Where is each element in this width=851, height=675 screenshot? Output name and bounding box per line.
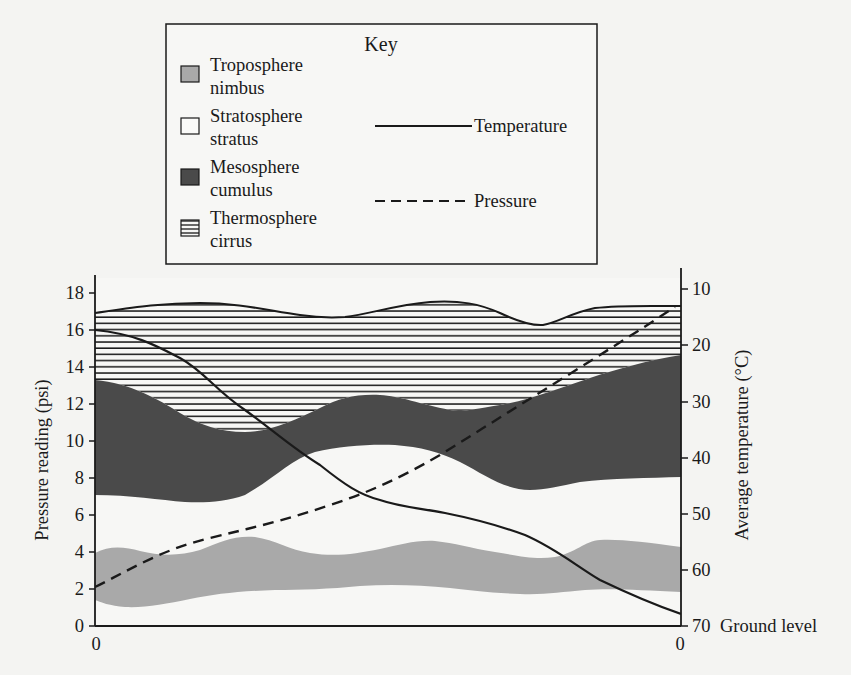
plot-area bbox=[95, 278, 681, 626]
tick-label: 40 bbox=[692, 448, 711, 468]
right-axis-label: Average temperature (°C) bbox=[732, 350, 753, 541]
swatch-thermosphere-icon bbox=[181, 220, 199, 236]
legend-label: Temperature bbox=[474, 116, 567, 136]
legend-label: Mesosphere bbox=[210, 157, 299, 177]
tick-label: 70 bbox=[692, 616, 711, 636]
tick-label: 60 bbox=[692, 560, 711, 580]
left-axis-label: Pressure reading (psi) bbox=[32, 379, 53, 540]
swatch-mesosphere-icon bbox=[181, 169, 199, 185]
x-axis: 0 0 bbox=[91, 626, 684, 654]
tick-label: 14 bbox=[66, 357, 85, 377]
x-tick-label: 0 bbox=[91, 634, 100, 654]
legend: Key Troposphere nimbus Stratosphere stra… bbox=[166, 24, 597, 264]
tick-label: 6 bbox=[75, 505, 84, 525]
x-tick-label: 0 bbox=[675, 634, 684, 654]
right-axis: 10 20 30 40 50 60 70 Ground level Averag… bbox=[681, 268, 817, 636]
legend-title: Key bbox=[364, 33, 397, 56]
legend-label: Pressure bbox=[474, 191, 537, 211]
tick-label: 16 bbox=[66, 320, 85, 340]
chart: Key Troposphere nimbus Stratosphere stra… bbox=[0, 0, 851, 675]
tick-label: 12 bbox=[66, 394, 85, 414]
legend-label: nimbus bbox=[210, 78, 264, 98]
tick-label: 30 bbox=[692, 392, 711, 412]
tick-label: 10 bbox=[66, 431, 85, 451]
tick-label: 18 bbox=[66, 283, 85, 303]
tick-label: 4 bbox=[75, 542, 84, 562]
tick-label: 2 bbox=[75, 579, 84, 599]
tick-label: 0 bbox=[75, 616, 84, 636]
legend-label: stratus bbox=[210, 129, 258, 149]
legend-label: cirrus bbox=[210, 231, 252, 251]
tick-label: 20 bbox=[692, 335, 711, 355]
tick-label: 50 bbox=[692, 504, 711, 524]
legend-label: cumulus bbox=[210, 180, 273, 200]
ground-level-label: Ground level bbox=[720, 616, 817, 636]
legend-label: Stratosphere bbox=[210, 106, 302, 126]
legend-label: Troposphere bbox=[210, 55, 303, 75]
left-axis: 0 2 4 6 8 10 12 14 16 18 Pressure readin… bbox=[32, 275, 95, 636]
swatch-stratosphere-icon bbox=[181, 118, 199, 134]
swatch-troposphere-icon bbox=[181, 66, 199, 82]
legend-label: Thermosphere bbox=[210, 208, 317, 228]
tick-label: 8 bbox=[75, 468, 84, 488]
tick-label: 10 bbox=[692, 279, 711, 299]
